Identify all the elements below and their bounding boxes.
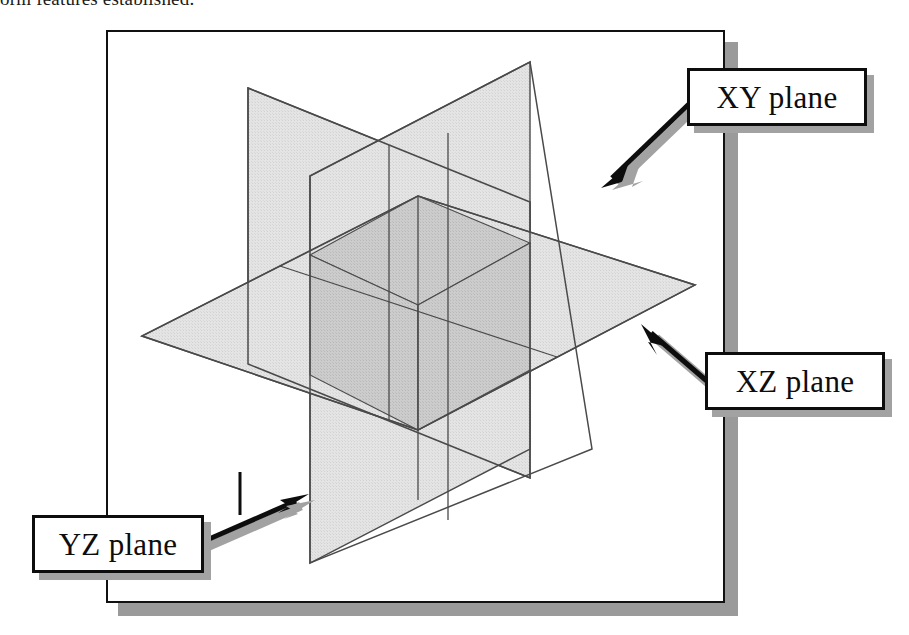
- callout-arrow-yz: [200, 494, 315, 548]
- callout-xy-border: XY plane: [687, 68, 867, 126]
- callout-xy-label: XY plane: [717, 82, 838, 113]
- callout-yz-label: YZ plane: [59, 529, 178, 560]
- callout-xz-label: XZ plane: [736, 366, 855, 397]
- callout-box-yz[interactable]: YZ plane: [32, 515, 204, 573]
- callout-box-xz[interactable]: XZ plane: [705, 352, 885, 410]
- callout-yz-border: YZ plane: [32, 515, 204, 573]
- callout-box-xy[interactable]: XY plane: [687, 68, 867, 126]
- figure-page: orm features established.: [0, 0, 909, 635]
- callout-xz-border: XZ plane: [705, 352, 885, 410]
- callout-arrow-xy: [601, 103, 695, 190]
- callout-arrow-xz: [641, 324, 713, 387]
